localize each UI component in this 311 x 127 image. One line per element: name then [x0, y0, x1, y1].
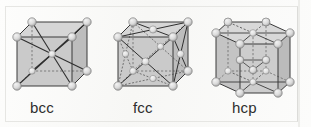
- hcp-unit-cell: [212, 18, 294, 97]
- atom-corner: [83, 67, 91, 75]
- atom-face-center: [157, 43, 163, 49]
- bcc-unit-cell: [13, 18, 91, 90]
- atom-corner: [13, 33, 21, 41]
- crystal-structure-figure: bcc fcc hcp: [0, 0, 311, 127]
- hcp-front-face: [240, 44, 278, 93]
- atom-corner: [169, 82, 177, 90]
- atom-corner: [184, 67, 192, 75]
- atom-corner: [29, 68, 35, 74]
- atom-midplane: [249, 66, 257, 74]
- atom-corner: [236, 40, 244, 48]
- atom-face-center: [122, 51, 128, 57]
- atom-corner: [114, 82, 122, 90]
- atom-corner: [263, 68, 269, 74]
- atom-corner: [274, 89, 282, 97]
- atom-corner: [286, 29, 294, 37]
- label-fcc: fcc: [133, 99, 153, 116]
- atom-corner: [286, 78, 294, 86]
- atom-face-center: [150, 75, 156, 81]
- atom-corner: [83, 18, 91, 26]
- atom-corner: [224, 18, 232, 26]
- atom-face-center: [149, 26, 156, 33]
- atom-corner: [274, 40, 282, 48]
- atom-corner: [262, 18, 270, 26]
- atom-face-center: [142, 58, 149, 65]
- atom-corner: [212, 29, 220, 37]
- atom-corner: [169, 33, 177, 41]
- label-bcc: bcc: [30, 99, 54, 116]
- atom-corner: [68, 82, 76, 90]
- atom-face-center: [177, 50, 184, 57]
- atom-corner: [13, 82, 21, 90]
- atom-corner: [129, 18, 137, 26]
- atom-top-center: [250, 30, 257, 37]
- atom-bottom-center: [250, 79, 256, 85]
- atom-corner: [236, 89, 244, 97]
- atom-corner: [212, 78, 220, 86]
- atom-midplane: [262, 56, 270, 64]
- atom-corner: [68, 33, 76, 41]
- atom-midplane: [236, 56, 244, 64]
- atom-corner: [130, 68, 137, 75]
- fcc-unit-cell: [114, 18, 192, 90]
- atom-corner: [184, 18, 192, 26]
- atom-corner: [225, 68, 231, 74]
- atom-corner: [114, 33, 122, 41]
- atom-body-center: [49, 51, 56, 58]
- label-hcp: hcp: [232, 99, 257, 116]
- atom-corner: [28, 18, 36, 26]
